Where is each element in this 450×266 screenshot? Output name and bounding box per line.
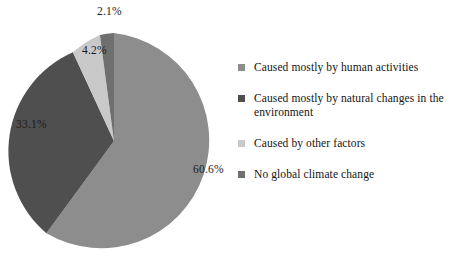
pie-data-label-1: 33.1%: [16, 118, 47, 130]
pie-svg: [0, 0, 232, 266]
legend-item-label: No global climate change: [254, 167, 374, 181]
legend-item-other-factors[interactable]: Caused by other factors: [238, 136, 444, 150]
pie-data-label-3: 2.1%: [97, 5, 122, 17]
legend-swatch-icon: [238, 64, 245, 71]
pie-plot-area: 60.6% 33.1% 4.2% 2.1%: [0, 0, 232, 266]
legend-item-human-activities[interactable]: Caused mostly by human activities: [238, 60, 444, 74]
legend-swatch-icon: [238, 140, 245, 147]
pie-chart-figure: 60.6% 33.1% 4.2% 2.1% Caused mostly by h…: [0, 0, 450, 266]
legend-item-no-climate-change[interactable]: No global climate change: [238, 167, 444, 181]
legend-item-label: Caused mostly by human activities: [254, 60, 418, 74]
legend-swatch-icon: [238, 95, 245, 102]
pie-data-label-2: 4.2%: [82, 44, 107, 56]
chart-legend: Caused mostly by human activities Caused…: [238, 60, 444, 181]
legend-item-label: Caused by other factors: [254, 136, 365, 150]
legend-item-natural-changes[interactable]: Caused mostly by natural changes in the …: [238, 91, 444, 119]
legend-item-label: Caused mostly by natural changes in the …: [254, 91, 444, 119]
legend-swatch-icon: [238, 171, 245, 178]
pie-data-label-0: 60.6%: [193, 163, 224, 175]
